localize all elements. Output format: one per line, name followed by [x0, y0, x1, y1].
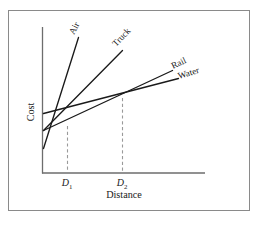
tick-label-d2: D2 — [116, 177, 128, 190]
tick-label-d1: D1 — [61, 177, 73, 190]
x-axis-title: Distance — [106, 189, 142, 200]
y-axis-title: Cost — [25, 102, 36, 121]
air-line — [44, 38, 79, 149]
air-label: Air — [67, 20, 82, 36]
rail-line — [44, 71, 173, 131]
tick-d2-sub: 2 — [124, 183, 128, 190]
truck-line — [44, 51, 123, 131]
transport-cost-chart: Air Truck Rail Water Cost Distance D1 D2 — [0, 0, 260, 228]
tick-d1-sub: 1 — [69, 183, 72, 190]
truck-label: Truck — [110, 26, 132, 49]
